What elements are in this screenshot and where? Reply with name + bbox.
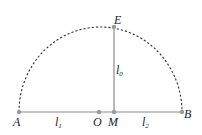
- semicircle-diagram: A O M B E l1 l2 l0: [0, 0, 202, 135]
- point-O: [97, 110, 101, 114]
- label-M: M: [107, 115, 119, 129]
- label-l1: l1: [55, 115, 62, 130]
- label-l2: l2: [142, 115, 149, 130]
- label-l0: l0: [116, 63, 123, 78]
- point-M: [112, 110, 116, 114]
- label-E: E: [113, 13, 122, 27]
- label-O: O: [93, 115, 102, 129]
- label-B: B: [184, 107, 192, 121]
- point-A: [17, 110, 21, 114]
- dashed-semicircle-arc: [19, 27, 182, 112]
- label-A: A: [12, 115, 21, 129]
